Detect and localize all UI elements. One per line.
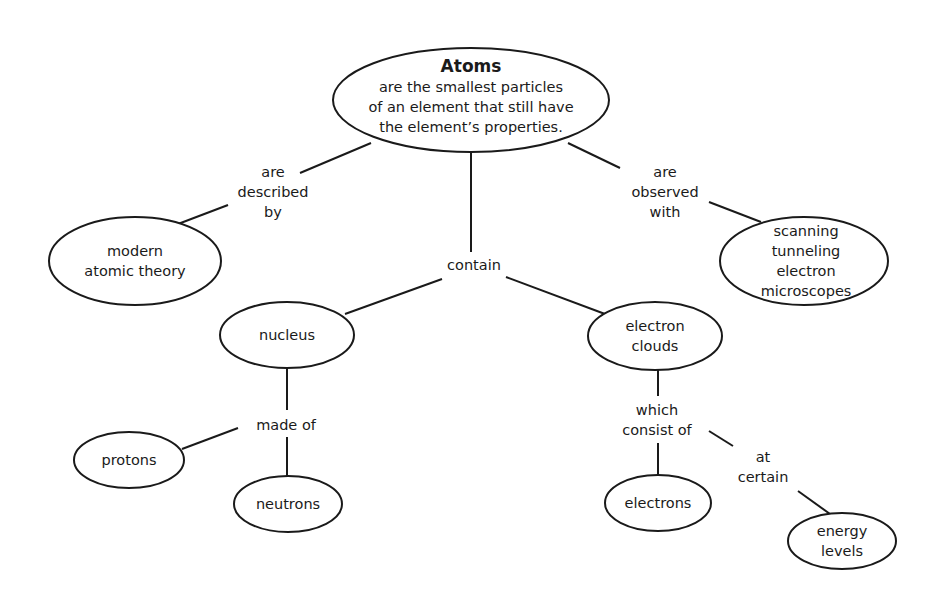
link-described-by-to-theory bbox=[178, 205, 228, 224]
link-label-observed-with: are observed with bbox=[631, 162, 698, 222]
electrons-label: electrons bbox=[625, 493, 692, 513]
nucleus-label: nucleus bbox=[259, 325, 315, 345]
link-contain-to-electron-clouds bbox=[506, 277, 605, 314]
link-atoms-to-described-by bbox=[300, 143, 371, 173]
link-label-made-of: made of bbox=[256, 415, 316, 435]
modern-atomic-theory-label: modern atomic theory bbox=[84, 241, 185, 281]
stm-label: scanning tunneling electron microscopes bbox=[745, 221, 868, 301]
link-label-described-by: are described by bbox=[238, 162, 309, 222]
link-label-contain: contain bbox=[447, 255, 501, 275]
link-consist-of-to-at-certain bbox=[709, 431, 733, 446]
neutrons-label: neutrons bbox=[256, 494, 320, 514]
link-made-of-to-protons bbox=[182, 428, 238, 449]
link-contain-to-nucleus bbox=[345, 279, 442, 314]
link-at-certain-to-energy-levels bbox=[798, 491, 830, 514]
electron-clouds-label: electron clouds bbox=[625, 316, 684, 356]
link-atoms-to-observed-with bbox=[568, 143, 620, 168]
energy-levels-label: energy levels bbox=[817, 521, 868, 561]
protons-label: protons bbox=[101, 450, 156, 470]
link-label-at-certain: at certain bbox=[738, 447, 789, 487]
atoms-description: are the smallest particles of an element… bbox=[368, 77, 573, 137]
link-observed-with-to-stm bbox=[709, 202, 761, 222]
link-label-consist-of: which consist of bbox=[622, 400, 691, 440]
atoms-title: Atoms bbox=[441, 56, 502, 76]
